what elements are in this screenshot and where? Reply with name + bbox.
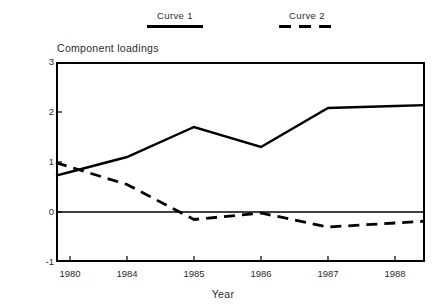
x-axis-ticks: 1980 1984 1985 1986 1987 1988 <box>0 0 446 308</box>
x-tick-label-1988: 1988 <box>373 268 417 279</box>
x-tick-label-1985: 1985 <box>172 268 216 279</box>
chart-figure: Curve 1 Curve 2 Component loadings 3 2 1… <box>0 0 446 308</box>
x-tick-label-1986: 1986 <box>239 268 283 279</box>
x-tick-label-1980: 1980 <box>48 268 92 279</box>
x-tick-label-1987: 1987 <box>306 268 350 279</box>
x-axis-title: Year <box>0 288 446 300</box>
x-tick-label-1984: 1984 <box>105 268 149 279</box>
